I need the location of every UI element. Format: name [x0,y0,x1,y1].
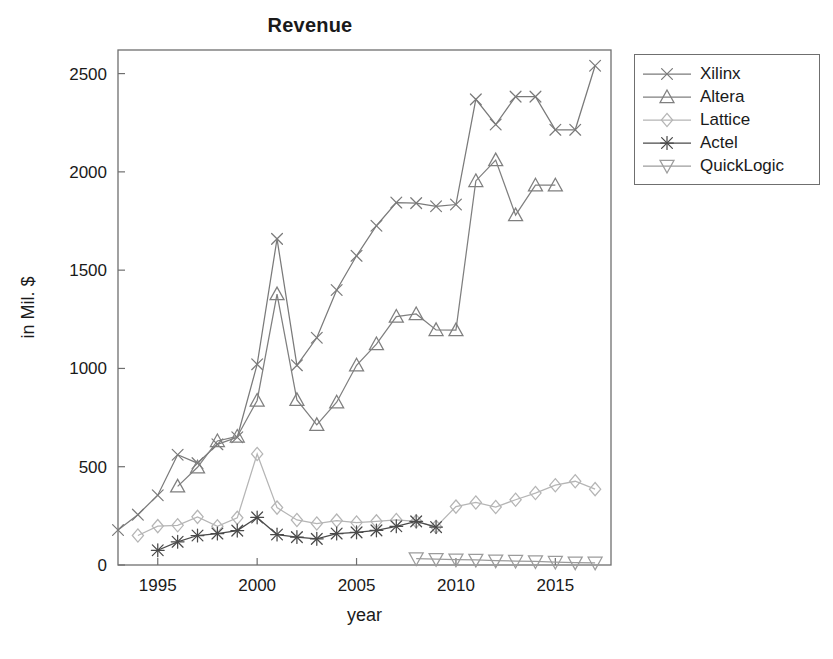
legend-label: Xilinx [693,64,741,84]
y-tick-label: 2000 [69,163,107,182]
legend-label: QuickLogic [693,156,784,176]
y-tick-label: 0 [98,556,107,575]
triangle-up-icon [641,87,693,107]
legend-item-quicklogic[interactable]: QuickLogic [641,154,811,177]
series-line [178,160,556,486]
x-tick-label: 2010 [437,576,475,595]
y-axis-title: in Mil. $ [18,276,38,338]
series-xilinx [113,60,601,535]
legend-item-xilinx[interactable]: Xilinx [641,62,811,85]
legend-label: Lattice [693,110,750,130]
asterisk-icon [641,133,693,153]
chart-legend: XilinxAlteraLatticeActelQuickLogic [634,54,820,185]
diamond-icon [641,110,693,130]
revenue-chart-figure: Revenue 05001000150020002500199520002005… [0,0,833,659]
series-quicklogic [409,553,602,570]
legend-item-altera[interactable]: Altera [641,85,811,108]
legend-item-lattice[interactable]: Lattice [641,108,811,131]
triangle-down-icon [641,156,693,176]
series-line [416,559,595,563]
legend-label: Altera [693,87,744,107]
y-tick-label: 1500 [69,261,107,280]
legend-item-actel[interactable]: Actel [641,131,811,154]
x-cross-icon [641,64,693,84]
x-axis-title: year [347,605,382,625]
y-tick-label: 2500 [69,65,107,84]
x-tick-label: 1995 [139,576,177,595]
x-tick-label: 2015 [536,576,574,595]
series-line [138,454,595,536]
legend-label: Actel [693,133,738,153]
y-tick-label: 1000 [69,359,107,378]
y-tick-label: 500 [79,458,107,477]
x-tick-label: 2005 [338,576,376,595]
x-tick-label: 2000 [238,576,276,595]
series-altera [171,153,563,492]
series-line [118,66,595,530]
